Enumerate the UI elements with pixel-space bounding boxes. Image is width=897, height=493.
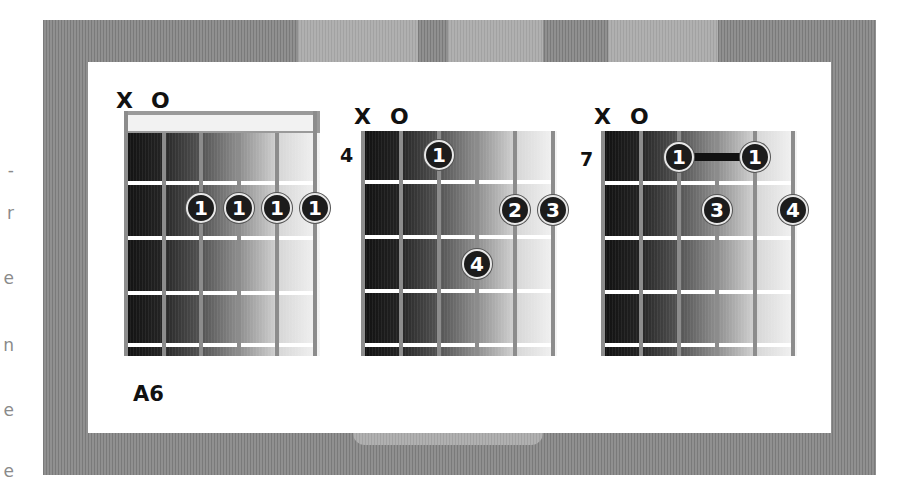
guitar-body-highlight	[608, 20, 718, 62]
fret-line	[605, 290, 795, 294]
muted-string-marker: X	[116, 90, 133, 112]
clipped-text-char: e	[0, 461, 14, 481]
open-string-marker: O	[151, 90, 170, 112]
open-string-marker: O	[630, 106, 649, 128]
string-5	[513, 131, 517, 356]
barre-bar	[690, 153, 744, 161]
string-4	[715, 131, 719, 356]
chord-name-label: A6	[133, 382, 164, 406]
string-4	[475, 131, 479, 356]
string-6	[551, 131, 555, 356]
string-1	[124, 111, 128, 356]
fret-line	[128, 291, 316, 295]
finger-dot: 4	[462, 249, 492, 279]
finger-dot: 3	[702, 195, 732, 225]
clipped-text-char: n	[0, 335, 14, 355]
string-2	[399, 131, 403, 356]
fret-line	[128, 236, 316, 240]
clipped-text-char: e	[0, 268, 14, 288]
string-2	[639, 131, 643, 356]
finger-dot: 4	[778, 195, 808, 225]
open-string-marker: O	[390, 106, 409, 128]
fret-line	[605, 236, 795, 240]
muted-string-marker: X	[354, 106, 371, 128]
guitar-body-highlight	[448, 20, 543, 62]
string-1	[361, 131, 365, 356]
finger-dot: 1	[740, 142, 770, 172]
start-fret-number: 7	[580, 149, 593, 169]
string-3	[199, 133, 203, 356]
string-5	[275, 133, 279, 356]
string-1	[601, 131, 605, 356]
fret-line	[605, 181, 795, 185]
guitar-body-highlight	[298, 20, 418, 62]
fretboard	[124, 133, 320, 356]
fret-line	[365, 180, 555, 184]
finger-dot: 1	[262, 193, 292, 223]
finger-dot: 1	[186, 193, 216, 223]
string-6	[313, 111, 317, 356]
clipped-text-char: -	[0, 160, 14, 180]
fret-line	[605, 343, 795, 347]
finger-dot: 1	[424, 140, 454, 170]
fretboard	[363, 131, 557, 356]
guitar-soundhole-highlight	[353, 433, 543, 445]
clipped-text-char: e	[0, 400, 14, 420]
fret-line	[365, 343, 555, 347]
clipped-text-char: r	[0, 203, 14, 223]
finger-dot: 3	[538, 195, 568, 225]
fret-line	[365, 235, 555, 239]
finger-dot: 1	[224, 193, 254, 223]
fret-line	[128, 181, 316, 185]
muted-string-marker: X	[594, 106, 611, 128]
finger-dot: 2	[500, 195, 530, 225]
fretboard	[603, 131, 797, 356]
nut	[124, 111, 320, 135]
fret-line	[365, 289, 555, 293]
finger-dot: 1	[664, 142, 694, 172]
finger-dot: 1	[300, 193, 330, 223]
string-4	[237, 133, 241, 356]
fret-line	[128, 343, 316, 347]
string-6	[791, 131, 795, 356]
string-2	[162, 133, 166, 356]
start-fret-number: 4	[340, 145, 353, 165]
